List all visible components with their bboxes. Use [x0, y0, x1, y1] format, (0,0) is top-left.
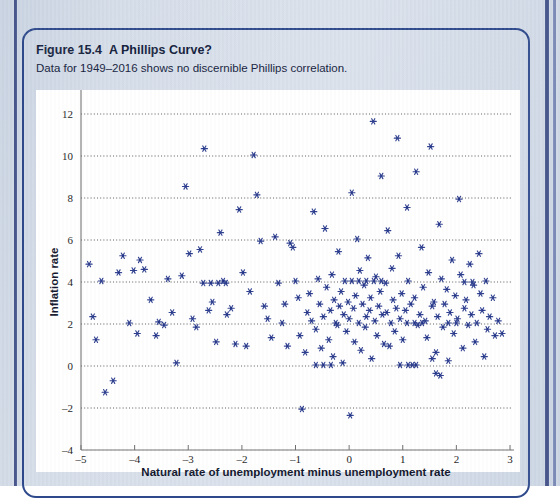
plot-panel	[36, 90, 520, 472]
page-spine-left	[14, 0, 17, 486]
page-spine-right	[545, 0, 549, 486]
figure-caption: Figure 15.4 A Phillips Curve? Data for 1…	[36, 42, 506, 76]
figure-number: Figure 15.4	[36, 43, 102, 57]
figure-subtitle: Data for 1949–2016 shows no discernible …	[36, 60, 506, 76]
figure-title: A Phillips Curve?	[109, 43, 212, 57]
page-spine-right-secondary	[553, 0, 556, 486]
